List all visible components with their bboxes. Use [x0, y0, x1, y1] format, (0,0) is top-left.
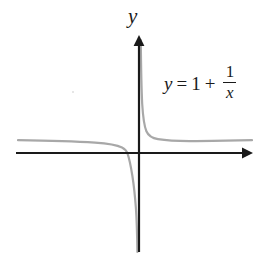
fraction-denominator: x: [224, 84, 236, 102]
scan-speck: [72, 91, 74, 93]
equation-lhs: y: [164, 74, 172, 93]
equation-constant: 1: [191, 74, 201, 93]
equation-plus: +: [205, 74, 216, 93]
y-axis-label: y: [128, 6, 137, 27]
function-plot: [0, 0, 264, 254]
equation-label: y = 1 + 1 x: [164, 64, 236, 103]
y-axis-arrow-icon: [134, 35, 145, 46]
graph-figure: y y = 1 + 1 x: [0, 0, 264, 254]
curve-left-branch: [18, 140, 137, 252]
equation-fraction: 1 x: [223, 63, 236, 102]
fraction-numerator: 1: [224, 63, 237, 81]
equation-equals: =: [176, 74, 187, 93]
x-axis-arrow-icon: [242, 147, 253, 158]
